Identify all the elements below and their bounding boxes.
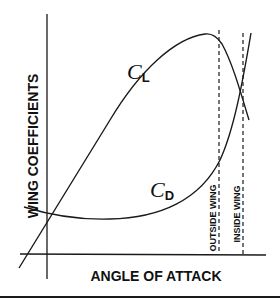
wing-coefficients-diagram: CL CD WING COEFFICIENTS ANGLE OF ATTACK … (0, 0, 280, 301)
x-axis-label: ANGLE OF ATTACK (90, 268, 221, 284)
y-axis-label: WING COEFFICIENTS (25, 74, 41, 219)
inside-wing-label: INSIDE WING (232, 185, 242, 242)
outside-wing-label: OUTSIDE WING (208, 185, 218, 252)
x-axis (20, 254, 266, 255)
lift-coefficient-label: CL (127, 59, 150, 85)
drag-coefficient-label: CD (150, 177, 174, 203)
